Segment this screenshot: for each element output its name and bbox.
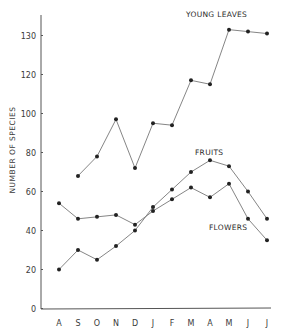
data-point-marker [114,213,118,217]
line-chart: 020406080100120130 ASONDJFMAMJJ NUMBER O… [0,0,282,336]
data-point-marker [227,28,231,32]
data-point-marker [57,201,61,205]
data-point-marker [95,154,99,158]
data-point-marker [208,82,212,86]
data-point-marker [76,174,80,178]
series-line [78,30,267,176]
y-tick-label: 40 [26,227,36,236]
data-point-marker [95,258,99,262]
series-label-fruits: FRUITS [195,148,223,157]
x-tick-label: D [132,319,138,328]
y-axis-ticks: 020406080100120130 [21,32,43,314]
data-point-marker [227,164,231,168]
data-point-marker [114,117,118,121]
y-tick-label: 60 [26,188,36,197]
x-tick-label: S [75,319,80,328]
data-point-marker [208,195,212,199]
data-point-marker [265,217,269,221]
data-point-marker [265,32,269,36]
x-tick-label: J [151,319,154,328]
data-point-marker [208,158,212,162]
series-lines [57,28,269,272]
data-point-marker [246,190,250,194]
data-point-marker [246,217,250,221]
y-tick-label: 120 [21,71,36,80]
data-point-marker [189,78,193,82]
y-tick-label: 20 [26,266,36,275]
data-point-marker [57,268,61,272]
series-line [59,160,267,269]
y-tick-label: 80 [26,149,36,158]
data-point-marker [170,123,174,127]
x-tick-label: N [113,319,119,328]
data-point-marker [189,186,193,190]
series-young-leaves [76,28,269,178]
data-point-marker [114,244,118,248]
data-point-marker [95,215,99,219]
x-tick-label: O [94,319,100,328]
data-point-marker [265,238,269,242]
y-axis-title: NUMBER OF SPECIES [8,106,17,193]
x-tick-label: A [207,319,213,328]
x-tick-label: M [188,319,195,328]
x-tick-label: J [246,319,249,328]
data-point-marker [76,248,80,252]
y-axis: 020406080100120130 [21,15,43,314]
data-point-marker [227,182,231,186]
y-tick-label: 100 [21,110,36,119]
x-axis-labels: ASONDJFMAMJJ [56,319,268,328]
data-point-marker [133,166,137,170]
data-point-marker [76,217,80,221]
x-tick-label: A [56,319,62,328]
data-point-marker [133,223,137,227]
data-point-marker [246,30,250,34]
data-point-marker [151,121,155,125]
data-point-marker [151,209,155,213]
data-point-marker [170,188,174,192]
y-tick-label: 130 [21,32,36,41]
data-point-marker [133,229,137,233]
data-point-marker [151,205,155,209]
series-label-young-leaves: YOUNG LEAVES [185,10,247,19]
x-tick-label: J [265,319,268,328]
series-label-flowers: FLOWERS [209,223,247,232]
series-fruits [57,158,269,271]
y-tick-label: 0 [31,305,36,314]
series-flowers [57,182,269,243]
data-point-marker [189,170,193,174]
x-tick-label: M [226,319,233,328]
x-axis: ASONDJFMAMJJ [41,308,271,328]
data-point-marker [170,197,174,201]
x-tick-label: F [170,319,175,328]
